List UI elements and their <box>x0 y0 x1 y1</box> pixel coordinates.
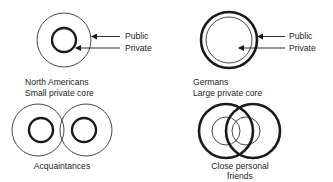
person-b-private-core <box>232 117 260 145</box>
acquaintances-diagram <box>12 104 112 156</box>
private-core-circle <box>52 28 76 52</box>
na-subtitle: Small private core <box>25 88 94 98</box>
na-private-label: Private <box>125 43 152 53</box>
na-public-label: Public <box>125 31 148 41</box>
person-a-private-core <box>29 118 53 142</box>
germans-diagram <box>201 12 285 68</box>
de-public-label: Public <box>289 31 312 41</box>
de-title: Germans <box>193 77 228 87</box>
public-outer-circle <box>201 12 257 68</box>
north-americans-diagram <box>37 13 120 67</box>
person-b-private-core <box>72 118 96 142</box>
na-title: North Americans <box>25 77 89 87</box>
public-outer-circle <box>37 13 91 67</box>
close-friends-diagram <box>199 104 280 158</box>
person-b-public-circle <box>60 104 112 156</box>
person-a-public-circle <box>12 104 64 156</box>
de-private-label: Private <box>289 43 316 53</box>
private-core-circle <box>206 17 252 63</box>
close-friends-caption-line2: friends <box>200 171 280 181</box>
close-friends-caption-line1: Close personal <box>200 161 280 171</box>
de-subtitle: Large private core <box>193 88 262 98</box>
acquaintances-caption: Acquaintances <box>22 161 102 171</box>
